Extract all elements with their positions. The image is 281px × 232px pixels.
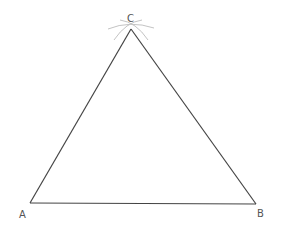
construction-arc-from-b-2 xyxy=(120,20,148,40)
vertex-label-b: B xyxy=(257,208,264,219)
construction-arc-from-a xyxy=(108,24,154,29)
vertex-label-c: C xyxy=(127,13,134,24)
triangle-construction: C A B xyxy=(0,0,281,232)
side-ab xyxy=(30,203,256,204)
diagram-canvas: C A B xyxy=(0,0,281,232)
side-bc xyxy=(131,29,256,204)
side-ac xyxy=(30,29,131,203)
vertex-label-a: A xyxy=(19,209,26,220)
